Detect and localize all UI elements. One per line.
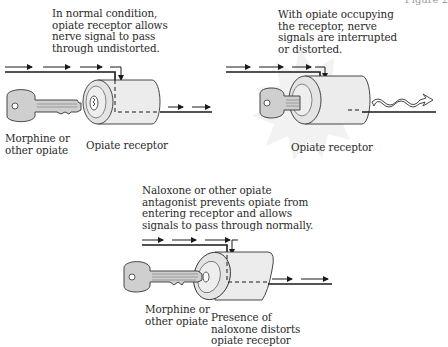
receptor-label-opiate-bound: Opiate receptor xyxy=(291,142,373,154)
opiate-key xyxy=(7,90,81,122)
opiate-key-blocked xyxy=(124,262,202,292)
panel-normal xyxy=(5,67,212,124)
key-label-normal: Morphine or other opiate xyxy=(5,133,70,156)
opiate-receptor-cylinder xyxy=(83,80,160,124)
key-label-naloxone: Morphine or other opiate xyxy=(145,304,210,327)
wavy-distorted-signal-arrow xyxy=(372,94,433,107)
incoming-signal-arrows xyxy=(5,67,121,80)
opiate-receptor-cylinder xyxy=(289,76,370,124)
receptor-label-naloxone: Presence of naloxone distorts opiate rec… xyxy=(211,312,300,347)
panel-naloxone xyxy=(124,240,332,304)
receptor-label-normal: Opiate receptor xyxy=(86,140,168,152)
